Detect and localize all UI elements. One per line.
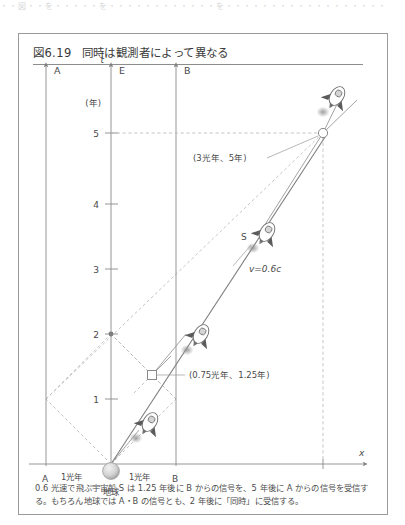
label-ship-S: S [241,232,247,242]
page-bleed-text: ・・図・・を・・・・・を・・・・・・・・・・・・を・・・・・・・・・・・・・・・… [0,0,405,14]
leader-line-eventhigh [267,136,318,158]
y-tick-label-1: 1 [93,395,99,405]
event-marker-earth-t2[interactable] [109,332,114,337]
rocket-shadow-middle [247,243,260,253]
y-tick-marks [105,133,118,399]
signal-lines-group [111,96,357,464]
label-event-low: (0.75光年、1.25年) [189,370,269,380]
label-line-A: A [54,65,61,76]
label-velocity: v=0.6c [249,264,281,274]
signal-eventlow-to-ship [152,334,186,375]
worldline-spaceship-S [111,134,327,464]
label-axis-t: t [100,55,104,65]
y-tick-label-2: 2 [93,330,99,340]
rocket-shadow-bottom [130,433,143,443]
y-tick-label-5: 5 [93,129,99,139]
label-event-high: (3光年、5年) [193,153,246,163]
spacetime-diagram: t A E B (年) 5 4 3 2 1 (3光年、5年) (0.75光年、1… [19,34,389,516]
light-cone-dashed-group [46,133,323,464]
figure-caption: 0.6 光速で飛ぶ宇宙船 S は 1.25 年後に B からの信号を、5 年後に… [35,482,373,508]
signal-eventhigh-to-shipA [259,133,323,234]
event-marker-low[interactable] [148,371,157,380]
label-distance-left: 1光年 [61,472,82,482]
lightray-earth-upleft [46,399,111,464]
lightray-A-to-eventhigh [46,133,323,399]
event-marker-high[interactable] [318,128,327,137]
label-line-E: E [119,65,125,76]
y-tick-label-3: 3 [93,265,99,275]
label-distance-right: 1光年 [129,472,150,482]
rocket-shadow-top [317,107,330,117]
label-axis-x: x [358,448,365,458]
label-line-B: B [184,65,191,76]
rocket-shadow-low [181,345,194,355]
earth-icon [103,463,120,480]
y-tick-label-4: 4 [93,200,99,210]
figure-box: 図6.19同時は観測者によって異なる [18,33,388,515]
label-unit-year: (年) [85,98,101,108]
